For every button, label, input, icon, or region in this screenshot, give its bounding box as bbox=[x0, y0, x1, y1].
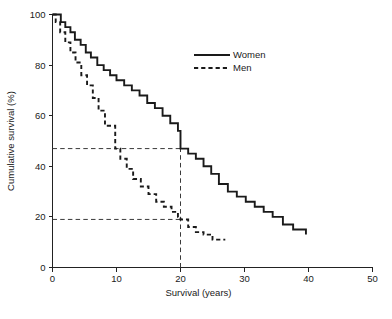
plot-axes bbox=[53, 15, 373, 268]
survival-curve-men bbox=[53, 15, 226, 240]
legend-label-men: Men bbox=[233, 62, 251, 73]
kaplan-meier-survival-figure: 020406080100 01020304050 Cumulative surv… bbox=[0, 0, 392, 319]
x-tick-label: 10 bbox=[111, 273, 122, 284]
survival-chart-canvas: 020406080100 01020304050 Cumulative surv… bbox=[0, 0, 392, 319]
x-tick-label: 40 bbox=[303, 273, 314, 284]
y-axis-title: Cumulative survival (%) bbox=[5, 91, 16, 191]
reference-lines bbox=[53, 149, 181, 268]
y-tick-label: 80 bbox=[35, 60, 46, 71]
x-tick-label: 20 bbox=[175, 273, 186, 284]
y-tick-label: 100 bbox=[30, 9, 46, 20]
x-tick-label: 30 bbox=[239, 273, 250, 284]
x-axis-title: Survival (years) bbox=[166, 287, 232, 298]
x-tick-label: 0 bbox=[50, 273, 55, 284]
x-axis-ticks: 01020304050 bbox=[50, 268, 378, 284]
y-tick-label: 20 bbox=[35, 211, 46, 222]
legend-label-women: Women bbox=[233, 49, 266, 60]
y-axis-ticks: 020406080100 bbox=[30, 9, 53, 273]
survival-curve-women bbox=[53, 15, 306, 235]
chart-legend: WomenMen bbox=[194, 49, 266, 73]
y-tick-label: 40 bbox=[35, 161, 46, 172]
y-tick-label: 0 bbox=[40, 262, 45, 273]
x-tick-label: 50 bbox=[367, 273, 378, 284]
y-tick-label: 60 bbox=[35, 110, 46, 121]
survival-curves bbox=[53, 15, 306, 240]
